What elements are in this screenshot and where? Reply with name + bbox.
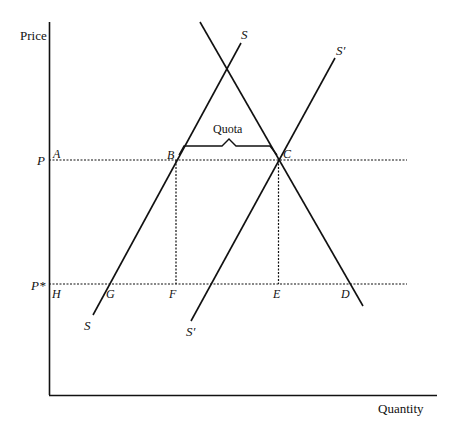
point-label-a: A: [52, 147, 61, 161]
quota-supply-demand-diagram: Price Quantity P P* S S S′ S′ A B C H G …: [0, 0, 458, 434]
point-label-e: E: [272, 287, 281, 301]
point-label-d: D: [340, 287, 350, 301]
supply-label-bottom: S: [84, 318, 91, 333]
point-label-g: G: [106, 287, 115, 301]
supply-shifted-label-bottom: S′: [186, 324, 196, 339]
supply-label-top: S: [241, 27, 248, 42]
quota-label: Quota: [213, 122, 243, 136]
point-label-f: F: [168, 287, 177, 301]
price-label-p-star: P*: [30, 278, 46, 293]
supply-curve-s-prime: [191, 58, 335, 321]
demand-curve: [200, 22, 363, 306]
x-axis-label: Quantity: [378, 401, 424, 416]
point-label-c: C: [283, 147, 292, 161]
point-label-h: H: [51, 287, 62, 301]
quota-bracket: [179, 139, 277, 155]
supply-shifted-label-top: S′: [336, 43, 346, 58]
point-label-b: B: [167, 148, 175, 162]
price-label-p: P: [36, 153, 45, 168]
supply-curve-s: [93, 43, 241, 315]
y-axis-label: Price: [20, 28, 47, 43]
